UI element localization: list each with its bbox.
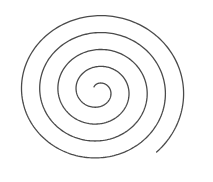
spiral-line — [22, 16, 184, 158]
spiral-drawing — [0, 0, 213, 182]
spiral-canvas — [0, 0, 213, 182]
